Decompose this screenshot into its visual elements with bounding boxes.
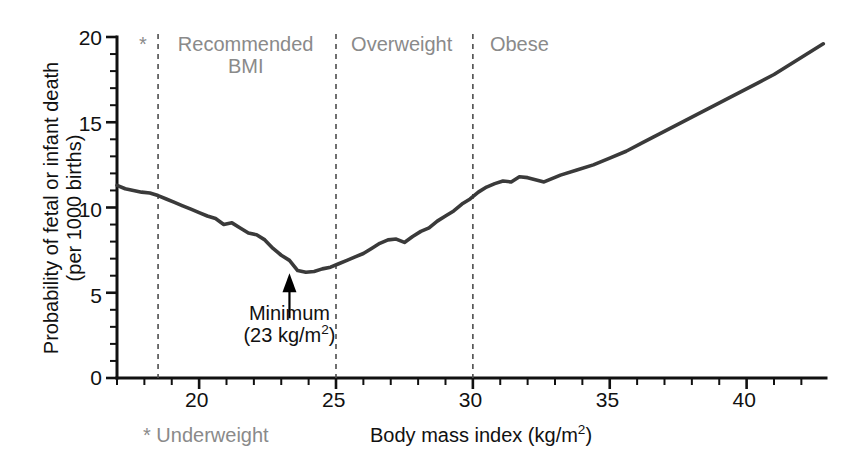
arrow-head xyxy=(282,273,296,292)
region-label-overweight: Overweight xyxy=(327,33,477,55)
series-line-probability-of-death xyxy=(117,44,823,272)
minimum-annotation-line2: (23 kg/m2) xyxy=(204,324,374,346)
y-axis-title-line1: Probability of fetal or infant death xyxy=(40,43,63,373)
chart-canvas xyxy=(0,0,859,470)
y-axis-title: Probability of fetal or infant death (pe… xyxy=(40,43,86,373)
minimum-annotation-line1: Minimum xyxy=(204,302,374,324)
x-axis-title-close: ) xyxy=(585,424,592,446)
chart-figure: 20 15 10 5 0 Probability of fetal or inf… xyxy=(0,0,859,470)
minimum-annotation-value-base: (23 kg/m xyxy=(243,324,321,346)
x-axis-title-base: Body mass index (kg/m xyxy=(370,424,578,446)
region-label-recommended-line1: Recommended xyxy=(146,33,346,55)
data-series-curve xyxy=(117,44,823,272)
minimum-annotation-exponent: 2 xyxy=(321,323,329,338)
x-tick-label-30: 30 xyxy=(459,388,482,412)
footnote-underweight: * Underweight xyxy=(143,424,269,446)
minimum-annotation-label: Minimum (23 kg/m2) xyxy=(204,302,374,347)
minimum-annotation-close: ) xyxy=(329,324,336,346)
x-tick-label-35: 35 xyxy=(596,388,619,412)
x-tick-label-40: 40 xyxy=(733,388,756,412)
y-axis-ticks xyxy=(106,37,117,378)
region-label-recommended-bmi: RecommendedBMI xyxy=(146,33,346,78)
region-label-obese: Obese xyxy=(464,33,574,55)
y-axis-title-line2: (per 1000 births) xyxy=(63,43,86,373)
x-tick-label-25: 25 xyxy=(322,388,345,412)
x-axis-title: Body mass index (kg/m2) xyxy=(370,424,592,446)
region-label-recommended-line2: BMI xyxy=(146,55,346,77)
x-tick-label-20: 20 xyxy=(185,388,208,412)
